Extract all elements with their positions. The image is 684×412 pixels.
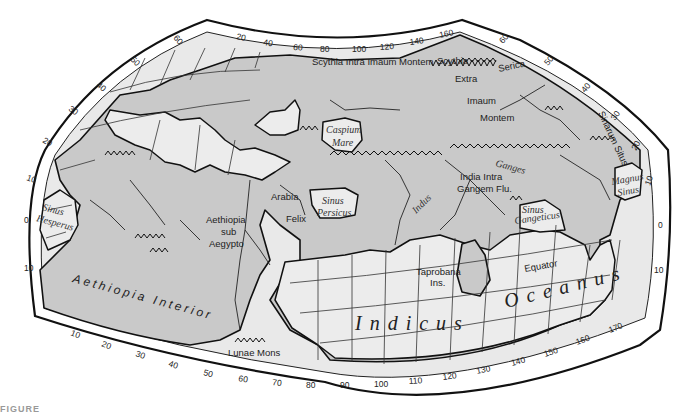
label-indicus: Indicus [354,312,470,334]
label-imaum: Imaum [467,95,496,106]
label-sinus-persicus-1: Sinus [322,195,344,206]
figure-caption: FIGURE [0,404,40,412]
label-lunae-mons: Lunae Mons [228,347,281,358]
tick-bottom-50: 50 [203,367,215,379]
label-gangem-flu: Gangem Flu. [457,183,512,194]
tick-bottom-60: 60 [238,373,249,385]
label-montem: Montem [480,112,514,123]
label-sub: sub [221,226,236,237]
tick-bottom-70: 70 [272,377,283,388]
label-persicus: Persicus [316,207,352,218]
label-mare: Mare [331,137,354,148]
label-india-intra: India Intra [460,171,503,182]
tick-bottom-110: 110 [408,375,422,386]
tick-bottom-80: 80 [306,380,316,390]
tick-right-s10: 10 [654,265,664,275]
label-arabia: Arabia [271,191,299,202]
tick-bottom-30: 30 [134,348,147,361]
tick-bottom-120: 120 [442,370,458,382]
label-caspium: Caspium [326,124,362,135]
tick-right-0: 0 [658,220,663,230]
tick-bottom-100: 100 [374,379,388,389]
label-scythia: Scythia [437,55,469,66]
tick-top-100: 100 [352,44,366,54]
tick-top-140: 140 [409,35,425,47]
tick-top-80: 80 [320,44,330,54]
tick-left-s10: 10 [24,263,34,273]
tick-bottom-10: 10 [69,328,82,341]
label-aegypto: Aegypto [209,238,244,249]
label-felix: Felix [286,213,306,224]
tick-bottom-20: 20 [100,339,113,352]
tick-top-40: 40 [263,37,274,48]
label-taprobana: Taprobana [416,266,462,277]
tick-left-0: 0 [24,215,29,225]
tick-top-120: 120 [379,41,394,52]
label-aethiopia: Aethiopia [206,214,246,225]
tick-bottom-40: 40 [167,358,179,371]
ptolemy-world-map: 20 40 60 80 100 120 140 160 60 50 40 30 … [0,0,684,412]
label-scythia-intra-imaum-montem: Scythia Intra Imaum Montem [312,56,434,67]
tick-top-60: 60 [293,42,303,53]
label-ins: Ins. [430,277,445,288]
tick-bottom-90: 90 [340,380,350,390]
label-extra: Extra [455,73,478,84]
